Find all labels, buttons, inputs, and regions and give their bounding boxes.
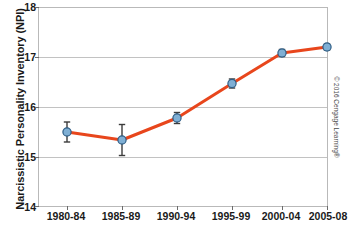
data-line xyxy=(67,47,327,140)
plot-area xyxy=(38,7,328,207)
data-point-marker xyxy=(63,128,71,136)
data-point-marker xyxy=(323,43,331,51)
x-tick-label: 1990-94 xyxy=(148,210,204,222)
data-point-marker xyxy=(228,79,236,87)
y-axis-tick-labels: 18 17 16 15 14 xyxy=(10,0,36,243)
x-tick-label: 2005-08 xyxy=(300,210,353,222)
data-marker-group xyxy=(63,43,331,144)
chart-figure: Narcissistic Personality Inventory (NPI)… xyxy=(0,0,353,243)
x-tick-label: 1985-89 xyxy=(93,210,149,222)
x-tick-label: 1995-99 xyxy=(203,210,259,222)
y-tick-label: 16 xyxy=(14,102,36,113)
y-tick-label: 18 xyxy=(14,2,36,13)
y-tick-label: 15 xyxy=(14,152,36,163)
y-tick-label: 14 xyxy=(14,202,36,213)
data-point-marker xyxy=(173,114,181,122)
line-chart-svg xyxy=(39,8,329,208)
x-tick-label: 1980-84 xyxy=(38,210,94,222)
copyright-credit: © 2016 Cengage Learning® xyxy=(333,77,340,187)
x-axis-tick-labels: 1980-84 1985-89 1990-94 1995-99 2000-04 … xyxy=(38,210,328,230)
data-point-marker xyxy=(118,136,126,144)
y-tick-label: 17 xyxy=(14,52,36,63)
data-point-marker xyxy=(278,49,286,57)
